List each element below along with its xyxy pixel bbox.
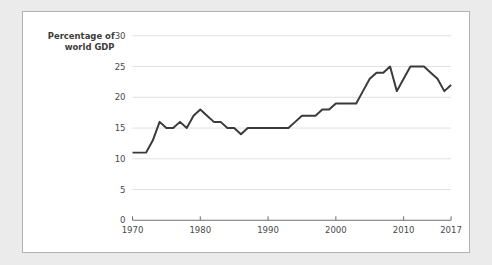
y-tick-label: 0 <box>120 215 125 225</box>
x-tick-label: 2000 <box>325 225 347 235</box>
x-axis-ticks <box>133 216 452 220</box>
x-tick-label: 1980 <box>189 225 211 235</box>
y-axis-title-line1: Percentage of <box>48 31 115 41</box>
y-tick-label: 10 <box>115 154 126 164</box>
gridlines <box>133 36 452 190</box>
chart-plot-area: 051015202530 197019801990200020102017 Pe… <box>23 12 469 252</box>
line-chart: 051015202530 197019801990200020102017 Pe… <box>23 12 469 252</box>
data-series-line <box>133 67 452 153</box>
chart-panel: 051015202530 197019801990200020102017 Pe… <box>22 11 470 253</box>
x-tick-label: 2017 <box>440 225 462 235</box>
y-tick-label: 30 <box>115 31 126 41</box>
x-axis-tick-labels: 197019801990200020102017 <box>122 225 462 235</box>
y-tick-label: 25 <box>115 62 126 72</box>
x-tick-label: 1970 <box>122 225 144 235</box>
y-axis-title-line2: world GDP <box>65 42 115 52</box>
x-tick-label: 2010 <box>393 225 415 235</box>
y-tick-label: 5 <box>120 185 125 195</box>
y-axis-tick-labels: 051015202530 <box>115 31 126 225</box>
x-tick-label: 1990 <box>257 225 279 235</box>
page-root: 051015202530 197019801990200020102017 Pe… <box>0 0 492 265</box>
y-tick-label: 15 <box>115 123 126 133</box>
y-tick-label: 20 <box>115 92 126 102</box>
